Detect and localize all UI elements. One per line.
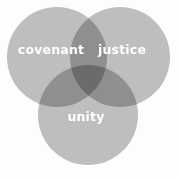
venn-circles-graphic bbox=[0, 0, 179, 180]
venn-circle-unity[interactable] bbox=[38, 65, 138, 165]
venn-diagram: covenant justice unity bbox=[0, 0, 179, 180]
